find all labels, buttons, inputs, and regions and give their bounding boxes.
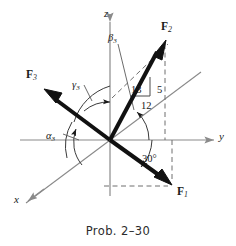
slope-horizontal-label: 12 [141, 101, 152, 112]
vector-F2-arrowhead [153, 40, 166, 60]
angle-label-alpha3-subscript: 3 [52, 135, 56, 143]
alpha3-arc [74, 129, 82, 165]
angle-arcs-group [66, 86, 152, 167]
diagram-canvas [0, 0, 236, 246]
figure-caption: Prob. 2–30 [0, 224, 236, 238]
vector-F1 [110, 140, 172, 185]
angle-label-alpha3: α3 [46, 131, 55, 143]
angle-label-gamma3-subscript: 3 [76, 84, 80, 92]
axes-group [20, 22, 214, 203]
x-axis-arrowhead [28, 189, 44, 201]
axis-label-z: z [104, 8, 108, 19]
construction-lines-group [104, 44, 172, 186]
angle-label-30deg: 30° [142, 154, 157, 165]
vector-label-F3-text: F [26, 68, 33, 80]
force-vector-diagram: z y x F1 F2 F3 α3 β3 γ3 30° 13 5 12 Prob… [0, 0, 236, 246]
vector-label-F3-subscript: 3 [33, 73, 37, 82]
vector-label-F1-subscript: 1 [184, 190, 188, 199]
axis-label-x: x [14, 194, 19, 205]
beta3-arc [137, 112, 149, 140]
angle-label-gamma3: γ3 [72, 80, 80, 92]
vector-label-F3: F3 [26, 69, 37, 82]
angle-label-beta3-subscript: 3 [113, 37, 117, 45]
vector-label-F2-text: F [161, 20, 168, 32]
vector-label-F1: F1 [177, 186, 188, 199]
slope-hypotenuse-label: 13 [131, 85, 142, 96]
slope-vertical-label: 5 [157, 85, 162, 96]
vector-label-F1-text: F [177, 185, 184, 197]
vector-label-F2-subscript: 2 [168, 25, 172, 34]
gamma3-arc [84, 102, 110, 111]
angle-label-beta3: β3 [108, 33, 117, 45]
leader-lines-group [63, 44, 134, 140]
vector-label-F2: F2 [161, 21, 172, 34]
axis-label-y: y [219, 131, 224, 142]
